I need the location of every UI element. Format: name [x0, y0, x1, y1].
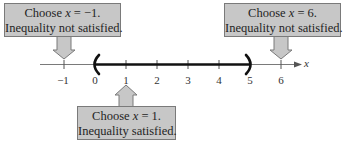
axis-variable-label: x: [304, 57, 309, 69]
up-arrow-icon: [115, 85, 137, 107]
callout-bottom-line1: Choose x = 1.: [78, 109, 175, 124]
callout-right: Choose x = 6. Inequality not satisfied.: [224, 3, 341, 37]
tick-label: 2: [147, 74, 167, 86]
axis-arrow-icon: [294, 62, 302, 68]
callout-bottom: Choose x = 1. Inequality satisfied.: [77, 106, 176, 140]
callout-left: Choose x = −1. Inequality not satisfied.: [4, 3, 121, 37]
callout-left-line1: Choose x = −1.: [5, 6, 120, 21]
number-line-diagram: −1 0 1 2 3 4 5 6 x Choose x = −1. Inequa…: [0, 0, 344, 148]
tick-label: 0: [85, 74, 105, 86]
callout-right-line2: Inequality not satisfied.: [225, 21, 340, 36]
callout-bottom-line2: Inequality satisfied.: [78, 124, 175, 139]
tick-label: 6: [271, 74, 291, 86]
tick-label: 1: [116, 74, 136, 86]
down-arrow-icon: [270, 36, 292, 59]
tick-label: 3: [178, 74, 198, 86]
tick-label: 4: [209, 74, 229, 86]
down-arrow-icon: [53, 36, 75, 59]
callout-right-line1: Choose x = 6.: [225, 6, 340, 21]
tick-label: 5: [240, 74, 260, 86]
tick-label: −1: [53, 74, 73, 86]
callout-left-line2: Inequality not satisfied.: [5, 21, 120, 36]
